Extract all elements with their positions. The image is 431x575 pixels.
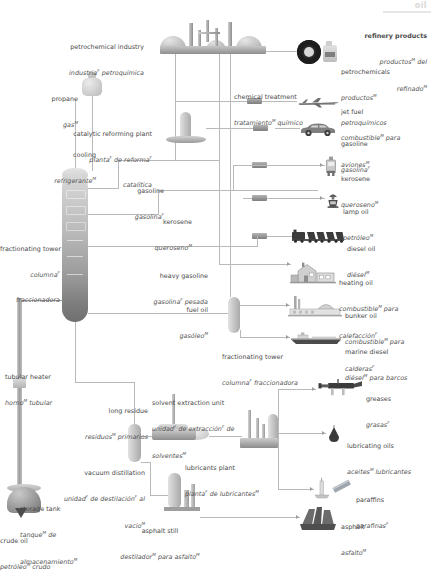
line-kerosene-product [233, 165, 325, 166]
canister-cap [326, 41, 332, 46]
label-crude-oil: crude oil petróleoM crudo [0, 521, 70, 575]
label-fractionating-tower-2: fractionating tower columnaF fraccionado… [222, 337, 352, 396]
line-diesel-riser [257, 236, 258, 247]
line-petrochemicals-out [262, 51, 298, 52]
corner-rule [383, 11, 431, 13]
lubricants-plant-body [240, 438, 278, 448]
product-label-asphalt: asphalt asfaltoM [341, 507, 415, 566]
canister-label [325, 52, 335, 57]
oil-lamp-icon [326, 190, 340, 208]
train-icon [292, 229, 344, 243]
fractionating-tower-secondary [228, 297, 240, 333]
oil-drop-icon [326, 425, 342, 443]
label-kerosene-stream: kerosene querosenoM [80, 202, 192, 261]
line-petro-stack-3 [230, 54, 231, 297]
line-tower-to-petrochemical [175, 54, 176, 160]
petrochemical-stack-3 [206, 20, 209, 42]
label-fuel-oil-stream: fuel oil gasóleoM [120, 290, 208, 349]
line-kerosene-product-riser [233, 165, 234, 191]
corner-tag: oil [415, 1, 427, 10]
label-long-residue: long residue residuosM primarios [62, 391, 148, 450]
line-bunker-oil [240, 305, 290, 306]
arrow-lampoil [320, 196, 323, 200]
arrow-kerosene [320, 163, 323, 167]
petrochemical-crossbeam [198, 32, 220, 34]
lubricants-stack-2 [256, 418, 259, 440]
line-heating-oil [219, 264, 291, 265]
jerrycan-icon [325, 156, 337, 176]
page-title-en: refinery products [364, 32, 427, 40]
label-lubricants-plant: lubricants plant plantaF de lubricantesM [185, 448, 295, 507]
line-kerosene-top [158, 190, 318, 191]
line-asphalt [200, 517, 300, 518]
arrow-lubricating-oils [322, 431, 325, 435]
petrochemical-platform [160, 46, 266, 54]
line-to-asphalt-still [150, 495, 168, 496]
petrochemical-stack-5 [228, 22, 232, 49]
lubricants-stack-1 [248, 410, 251, 440]
chemical-treatment-unit-diesel [252, 233, 267, 239]
label-asphalt-still: asphalt still destiladorM para asfaltoM [108, 511, 212, 570]
house-icon [290, 262, 336, 284]
label-chemical-treatment: chemical treatment tratamientoM químico [234, 77, 354, 136]
label-fractionating-tower-main: fractionating tower columnaF fraccionado… [0, 229, 60, 312]
chemical-treatment-unit-lampoil [252, 195, 267, 201]
line-petro-stack-2 [219, 54, 220, 264]
line-greases-riser [278, 389, 279, 447]
tire-hub [304, 47, 314, 57]
line-vacuum-down [150, 462, 151, 495]
factory-icon [288, 295, 342, 317]
catalytic-reformer-base [166, 136, 206, 143]
asphalt-icon [300, 505, 336, 531]
asphalt-still-column [168, 473, 181, 509]
tower-tray-6 [67, 274, 83, 275]
product-label-lubricating-oils: lubricating oils aceitesM lubricantes [347, 426, 431, 485]
arrow-asphalt [296, 515, 299, 519]
label-petrochemical-industry: petrochemical industry industriaF petroq… [0, 27, 144, 86]
line-lubricating-oils [278, 433, 326, 434]
line-diesel-to-train [267, 236, 293, 237]
